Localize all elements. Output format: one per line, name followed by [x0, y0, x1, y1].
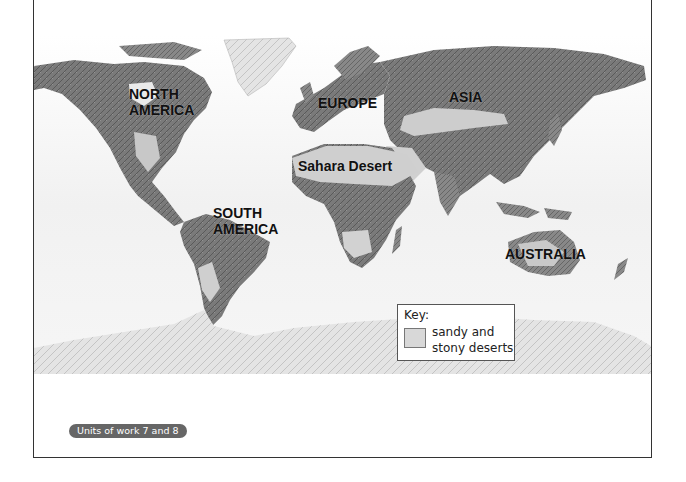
label-north-america-line1: NORTH — [129, 86, 194, 102]
map-key: Key: sandy and stony deserts — [397, 304, 515, 361]
world-map-graphic — [34, 36, 651, 374]
label-sahara-desert: Sahara Desert — [298, 158, 392, 174]
key-item-line2: stony deserts — [432, 340, 513, 356]
desert-swatch — [404, 328, 426, 348]
label-south-america-line1: SOUTH — [213, 205, 278, 221]
key-item-label: sandy and stony deserts — [432, 324, 513, 356]
label-asia: ASIA — [449, 89, 482, 105]
label-south-america: SOUTH AMERICA — [213, 205, 278, 237]
world-map — [34, 36, 651, 374]
key-item-line1: sandy and — [432, 324, 513, 340]
units-badge: Units of work 7 and 8 — [69, 424, 187, 438]
label-south-america-line2: AMERICA — [213, 221, 278, 237]
label-europe: EUROPE — [318, 95, 377, 111]
label-australia: AUSTRALIA — [505, 246, 586, 262]
label-north-america-line2: AMERICA — [129, 102, 194, 118]
key-title: Key: — [404, 308, 429, 322]
label-north-america: NORTH AMERICA — [129, 86, 194, 118]
